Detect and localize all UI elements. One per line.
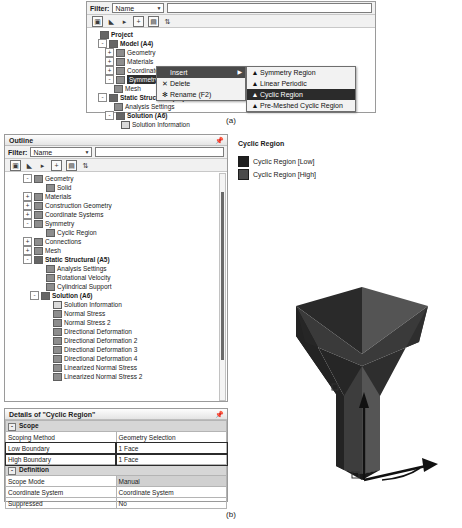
result-icon — [53, 310, 62, 318]
tree-item-solid[interactable]: Solid — [5, 183, 227, 192]
next-icon[interactable]: ▸ — [120, 17, 129, 26]
pin-icon[interactable]: 📌 — [215, 410, 224, 419]
tree-item-cylindrical-support[interactable]: Cylindrical Support — [5, 282, 227, 291]
tree-item-normal-stress[interactable]: Normal Stress — [5, 309, 227, 318]
tree-item-symmetry[interactable]: -Symmetry — [5, 219, 227, 228]
expand-icon[interactable]: ◣ — [25, 161, 34, 170]
tree-item-materials[interactable]: +Materials — [5, 192, 227, 201]
expand-node-icon[interactable]: + — [23, 246, 32, 255]
tree-item-static-structural-a5[interactable]: -Static Structural (A5) — [5, 255, 227, 264]
menu-item-rename-f2[interactable]: ✻Rename (F2) — [157, 89, 245, 100]
expand-node-icon[interactable]: + — [105, 57, 114, 66]
menu-item-insert[interactable]: Insert▶ — [157, 67, 245, 78]
expand-node-icon[interactable]: + — [23, 192, 32, 201]
outline-tree[interactable]: -GeometrySolid+Materials+Construction Ge… — [5, 172, 227, 398]
details-grid[interactable]: -ScopeScoping MethodGeometry SelectionLo… — [5, 420, 227, 509]
outline-filter-input[interactable] — [95, 147, 224, 157]
details-row-value[interactable]: Manual — [116, 476, 227, 487]
collapse-node-icon[interactable]: - — [23, 219, 32, 228]
details-section-header[interactable]: -Scope — [6, 421, 227, 432]
expand-node-icon[interactable]: + — [23, 237, 32, 246]
details-row[interactable]: Scope ModeManual — [6, 476, 227, 487]
panel-a-filter-input[interactable] — [167, 3, 372, 13]
details-row-value[interactable]: 1 Face — [116, 454, 227, 465]
details-row[interactable]: High Boundary1 Face — [6, 454, 227, 465]
expand-all-icon[interactable]: + — [51, 160, 62, 171]
outline-scrollbar[interactable] — [219, 173, 226, 401]
tree-item-model-a4[interactable]: -Model (A4) — [87, 39, 375, 48]
linear-periodic-icon: ▲ — [250, 78, 260, 89]
expand-node-icon[interactable]: + — [105, 48, 114, 57]
show-hide-icon[interactable]: ▣ — [92, 16, 103, 27]
details-section-header[interactable]: -Definition — [6, 465, 227, 476]
menu-item-linear-periodic[interactable]: ▲Linear Periodic — [247, 78, 355, 89]
pin-icon[interactable]: 📌 — [215, 136, 224, 145]
menu-item-pre-meshed-cyclic-region[interactable]: ▲Pre-Meshed Cyclic Region — [247, 100, 355, 111]
tree-item-linearized-normal-stress-2[interactable]: Linearized Normal Stress 2 — [5, 372, 227, 381]
collapse-node-icon[interactable]: - — [23, 255, 32, 264]
tree-item-construction-geometry[interactable]: +Construction Geometry — [5, 201, 227, 210]
tree-item-label: Normal Stress 2 — [64, 318, 111, 327]
sort-icon[interactable]: ⇅ — [81, 161, 90, 170]
details-row[interactable]: Scoping MethodGeometry Selection — [6, 432, 227, 443]
expand-node-icon[interactable]: + — [105, 66, 114, 75]
panel-a-filter-select[interactable]: Name ▼ — [112, 3, 164, 13]
menu-item-label: Rename (F2) — [170, 89, 211, 100]
menu-item-delete[interactable]: ✕Delete — [157, 78, 245, 89]
sort-icon[interactable]: ⇅ — [163, 17, 172, 26]
tree-item-analysis-settings[interactable]: Analysis Settings — [5, 264, 227, 273]
tree-item-geometry[interactable]: -Geometry — [5, 174, 227, 183]
tree-item-cyclic-region[interactable]: Cyclic Region — [5, 228, 227, 237]
tree-item-directional-deformation-2[interactable]: Directional Deformation 2 — [5, 336, 227, 345]
expand-icon[interactable]: ◣ — [107, 17, 116, 26]
insert-submenu[interactable]: ▲Symmetry Region▲Linear Periodic▲Cyclic … — [246, 66, 356, 112]
tree-item-coordinate-systems[interactable]: +Coordinate Systems — [5, 210, 227, 219]
collapse-icon[interactable]: ▤ — [148, 16, 159, 27]
details-row[interactable]: SuppressedNo — [6, 498, 227, 509]
tree-item-directional-deformation-4[interactable]: Directional Deformation 4 — [5, 354, 227, 363]
details-row-value[interactable]: Geometry Selection — [116, 432, 227, 443]
next-icon[interactable]: ▸ — [38, 161, 47, 170]
expand-node-icon[interactable]: + — [23, 210, 32, 219]
collapse-node-icon[interactable]: - — [98, 93, 107, 102]
tree-item-connections[interactable]: +Connections — [5, 237, 227, 246]
tree-item-label: Materials — [45, 192, 71, 201]
tree-item-solution-a6[interactable]: -Solution (A6) — [5, 291, 227, 300]
collapse-section-icon[interactable]: - — [8, 423, 16, 431]
tree-item-materials[interactable]: +Materials — [87, 57, 375, 66]
tree-item-directional-deformation-3[interactable]: Directional Deformation 3 — [5, 345, 227, 354]
tree-item-directional-deformation[interactable]: Directional Deformation — [5, 327, 227, 336]
expand-node-icon[interactable]: + — [23, 201, 32, 210]
tree-item-rotational-velocity[interactable]: Rotational Velocity — [5, 273, 227, 282]
details-row-value[interactable]: No — [116, 498, 227, 509]
expand-all-icon[interactable]: + — [133, 16, 144, 27]
tree-item-geometry[interactable]: +Geometry — [87, 48, 375, 57]
legend-item[interactable]: Cyclic Region [Low] — [238, 156, 316, 167]
collapse-icon[interactable]: ▤ — [66, 160, 77, 171]
tree-item-solution-information[interactable]: Solution Information — [5, 300, 227, 309]
outline-panel: Outline 📌 Filter: Name ▼ ▣ ◣ ▸ + ▤ ⇅ -Ge… — [4, 134, 228, 402]
collapse-node-icon[interactable]: - — [105, 75, 114, 84]
details-row[interactable]: Low Boundary1 Face — [6, 443, 227, 454]
collapse-node-icon[interactable]: - — [23, 174, 32, 183]
collapse-section-icon[interactable]: - — [8, 467, 16, 475]
show-hide-icon[interactable]: ▣ — [10, 160, 21, 171]
tree-item-mesh[interactable]: +Mesh — [5, 246, 227, 255]
context-menu[interactable]: Insert▶✕Delete✻Rename (F2) — [156, 66, 246, 101]
menu-item-symmetry-region[interactable]: ▲Symmetry Region — [247, 67, 355, 78]
collapse-node-icon[interactable]: - — [30, 291, 39, 300]
collapse-node-icon[interactable]: - — [98, 39, 107, 48]
details-row[interactable]: Coordinate SystemCoordinate System — [6, 487, 227, 498]
tree-item-project[interactable]: Project — [87, 30, 375, 39]
menu-item-cyclic-region[interactable]: ▲Cyclic Region — [247, 89, 355, 100]
tree-item-label: Geometry — [45, 174, 74, 183]
details-row-value[interactable]: 1 Face — [116, 443, 227, 454]
outline-scrollbar-thumb[interactable] — [221, 192, 224, 360]
details-section-label: Definition — [19, 466, 49, 473]
tree-item-normal-stress-2[interactable]: Normal Stress 2 — [5, 318, 227, 327]
legend-item[interactable]: Cyclic Region [High] — [238, 169, 316, 180]
tree-item-linearized-normal-stress[interactable]: Linearized Normal Stress — [5, 363, 227, 372]
details-row-value[interactable]: Coordinate System — [116, 487, 227, 498]
outline-filter-select[interactable]: Name ▼ — [30, 147, 92, 157]
cyclic-sector-model[interactable] — [274, 284, 454, 494]
